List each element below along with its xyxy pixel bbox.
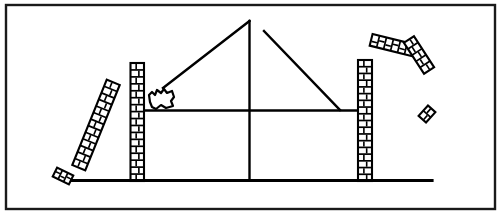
wall-collapse-diagram — [0, 0, 501, 215]
figure-container — [0, 0, 501, 215]
right-brick-column — [358, 60, 372, 181]
debris-blob — [149, 89, 174, 109]
left-brick-column-outline — [131, 63, 145, 181]
left-brick-column — [131, 63, 145, 181]
debris-blob-layer — [149, 89, 174, 109]
